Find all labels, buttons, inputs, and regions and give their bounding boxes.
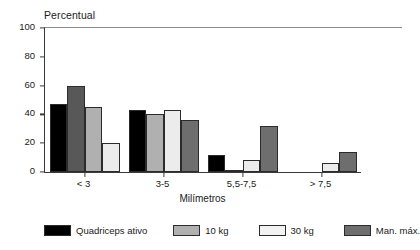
bar-quadriceps-ativo (50, 104, 68, 172)
bar-man-m-x (102, 143, 120, 172)
bar-10-kg (146, 114, 164, 172)
x-axis-title: Milímetros (44, 193, 361, 204)
legend-swatch (173, 225, 200, 236)
x-axis-tick-label: < 3 (77, 178, 90, 189)
legend-label: 10 kg (205, 225, 228, 236)
y-axis-labels: 020406080100 (0, 28, 44, 173)
x-axis-tick (242, 172, 243, 177)
x-axis-tick (84, 172, 85, 177)
y-axis-tick-label: 20 (0, 136, 35, 147)
y-axis-tick-label: 60 (0, 79, 35, 90)
bar-30-kg (322, 163, 340, 172)
legend-item[interactable]: Quadriceps ativo (44, 225, 147, 236)
bar-man-m-x (260, 126, 278, 172)
plot-area (44, 28, 361, 173)
y-axis-tick-label: 80 (0, 50, 35, 61)
y-axis-title: Percentual (44, 9, 95, 21)
x-axis-tick (321, 172, 322, 177)
legend-swatch (44, 225, 71, 236)
x-axis-tick (163, 172, 164, 177)
legend-label: Man. máx. (376, 225, 420, 236)
x-axis-labels: < 33-55,5-7,5> 7,5 (44, 178, 361, 192)
y-axis-tick-label: 0 (0, 165, 35, 176)
y-axis-tick (40, 85, 45, 86)
x-axis-tick-label: 3-5 (156, 178, 170, 189)
legend-label: 30 kg (291, 225, 314, 236)
y-axis-tick-label: 100 (0, 21, 35, 32)
legend-item[interactable]: 30 kg (259, 225, 314, 236)
legend-label: Quadriceps ativo (76, 225, 147, 236)
bar-quadriceps-ativo (208, 155, 226, 172)
bar-quadriceps-ativo (129, 110, 147, 172)
y-axis-tick (40, 56, 45, 57)
y-axis-tick (40, 171, 45, 172)
chart-legend: Quadriceps ativo10 kg30 kgMan. máx. (44, 222, 404, 238)
bar-30-kg (85, 107, 103, 172)
y-axis-tick (40, 27, 45, 28)
y-axis-tick (40, 114, 45, 115)
x-axis-tick-label: > 7,5 (310, 178, 331, 189)
legend-swatch (259, 225, 286, 236)
legend-item[interactable]: 10 kg (173, 225, 228, 236)
x-axis-tick-label: 5,5-7,5 (227, 178, 257, 189)
bar-10-kg (225, 170, 243, 172)
bar-man-m-x (181, 120, 199, 172)
bar-man-m-x (339, 152, 357, 172)
bar-30-kg (164, 110, 182, 172)
legend-item[interactable]: Man. máx. (344, 225, 420, 236)
bar-30-kg (243, 160, 261, 172)
legend-swatch (344, 225, 371, 236)
chart-figure: Percentual 020406080100 < 33-55,5-7,5> 7… (0, 0, 420, 250)
y-axis-tick-label: 40 (0, 107, 35, 118)
y-axis-tick (40, 143, 45, 144)
bar-10-kg (67, 86, 85, 172)
